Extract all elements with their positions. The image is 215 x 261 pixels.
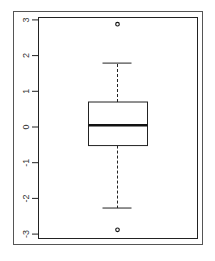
y-axis: -3-2-10123 <box>21 17 39 238</box>
y-tick-label: 2 <box>21 53 31 58</box>
y-tick-label: -1 <box>21 159 31 167</box>
y-tick-label: -2 <box>21 194 31 202</box>
outlier-point <box>116 22 120 26</box>
y-tick-label: 1 <box>21 89 31 94</box>
box-elements <box>89 22 148 231</box>
outlier-point <box>116 228 120 232</box>
iqr-box <box>89 102 148 146</box>
y-tick-label: 0 <box>21 124 31 129</box>
boxplot-chart: -3-2-10123 <box>0 0 215 261</box>
y-tick-label: 3 <box>21 17 31 22</box>
y-tick-label: -3 <box>21 230 31 238</box>
